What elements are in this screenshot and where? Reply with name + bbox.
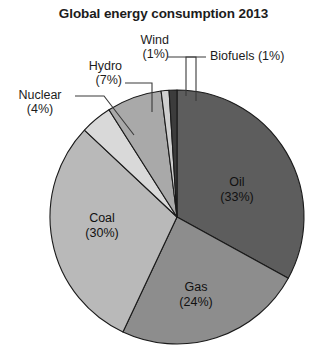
- slice-label-oil-name: Oil: [229, 175, 244, 189]
- callout-biofuels-label: Biofuels (1%): [210, 49, 284, 63]
- slice-label-oil-percent: (33%): [220, 190, 253, 204]
- slice-label-coal-percent: (30%): [85, 226, 118, 240]
- pie-chart-figure: Global energy consumption 2013 Oil (33%)…: [0, 0, 327, 352]
- slice-label-gas-name: Gas: [185, 280, 208, 294]
- callout-wind: Wind (1%): [113, 33, 169, 61]
- callout-hydro: Hydro (7%): [66, 59, 122, 87]
- callout-biofuels: Biofuels (1%): [210, 49, 284, 63]
- slice-label-coal-name: Coal: [89, 211, 115, 225]
- callout-nuclear: Nuclear (4%): [8, 88, 72, 116]
- slice-label-gas-percent: (24%): [179, 295, 212, 309]
- callout-hydro-label: Hydro: [89, 59, 122, 73]
- callout-hydro-percent: (7%): [66, 73, 122, 87]
- pie-slices: [50, 90, 304, 344]
- callout-nuclear-label: Nuclear: [18, 88, 61, 102]
- callout-wind-label: Wind: [141, 33, 169, 47]
- callout-nuclear-percent: (4%): [8, 102, 72, 116]
